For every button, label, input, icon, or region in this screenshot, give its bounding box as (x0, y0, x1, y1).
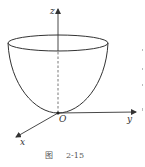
figure-caption-prefix: 图 (45, 151, 53, 160)
y-axis (58, 112, 136, 113)
figure-caption-number: 2-15 (66, 151, 84, 160)
paraboloid-diagram: z O y x 图 2-15 (0, 0, 145, 167)
x-axis (16, 113, 58, 137)
y-axis-label: y (126, 114, 133, 124)
x-axis-label: x (20, 137, 25, 147)
scan-artifacts (142, 49, 143, 111)
z-axis-label: z (49, 6, 55, 16)
origin-label: O (59, 114, 67, 124)
